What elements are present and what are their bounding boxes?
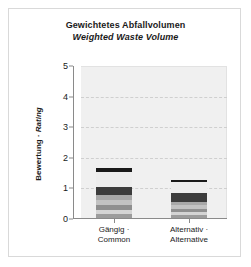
- bar-segment: [171, 182, 207, 193]
- x-axis-label-line-german: Alternativ ·: [144, 225, 234, 235]
- y-axis-tick-mark: [69, 219, 73, 220]
- bar-segment: [96, 214, 132, 218]
- x-axis-tick-mark: [114, 219, 115, 223]
- y-axis-tick-label: 3: [63, 122, 68, 132]
- y-axis-tick-label: 4: [63, 92, 68, 102]
- y-axis-tick-mark: [69, 127, 73, 128]
- y-axis-label: Bewertung · Rating: [31, 69, 45, 219]
- gridline: [81, 97, 227, 98]
- x-axis-label-line-english: Alternative: [144, 235, 234, 245]
- y-axis-line: [73, 66, 74, 219]
- x-axis-tick-mark: [189, 219, 190, 223]
- y-axis-tick-label: 0: [63, 214, 68, 224]
- bar-segment: [171, 215, 207, 218]
- gridline: [81, 158, 227, 159]
- y-axis-label-german: Bewertung ·: [34, 132, 43, 180]
- bar-1[interactable]: [96, 168, 132, 218]
- bar-segment: [96, 187, 132, 196]
- bar-segment: [96, 172, 132, 187]
- y-axis-tick-mark: [69, 66, 73, 67]
- y-axis-label-english: Rating: [34, 107, 43, 132]
- gridline: [81, 127, 227, 128]
- y-axis-tick-mark: [69, 157, 73, 158]
- bar-2[interactable]: [171, 180, 207, 218]
- chart-title-english: Weighted Waste Volume: [9, 31, 242, 43]
- x-axis-line: [73, 218, 227, 219]
- bar-segment: [171, 193, 207, 202]
- x-axis-label-2: Alternativ ·Alternative: [144, 225, 234, 245]
- y-axis-tick-label: 5: [63, 61, 68, 71]
- chart-title: Gewichtetes Abfallvolumen Weighted Waste…: [9, 19, 242, 43]
- plot-area: 012345: [73, 66, 227, 219]
- y-axis-tick-mark: [69, 188, 73, 189]
- y-axis-tick-label: 2: [63, 153, 68, 163]
- chart-title-german: Gewichtetes Abfallvolumen: [9, 19, 242, 31]
- chart-card: Gewichtetes Abfallvolumen Weighted Waste…: [8, 8, 241, 257]
- y-axis-tick-label: 1: [63, 183, 68, 193]
- y-axis-tick-mark: [69, 96, 73, 97]
